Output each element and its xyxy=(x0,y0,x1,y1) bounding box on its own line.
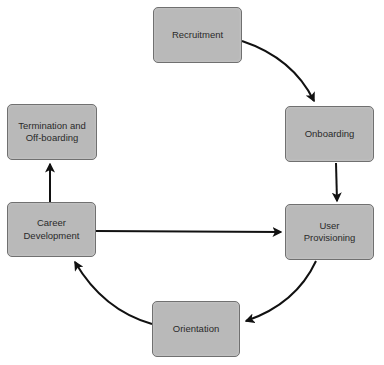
arrow-orientation-to-career-development xyxy=(75,262,152,324)
node-career-development: Career Development xyxy=(7,202,96,257)
node-label: Career Development xyxy=(24,217,80,242)
node-label: User Provisioning xyxy=(304,220,356,245)
node-label: Recruitment xyxy=(172,29,223,42)
lifecycle-diagram: Recruitment Onboarding User Provisioning… xyxy=(0,0,384,365)
node-termination-offboarding: Termination and Off-boarding xyxy=(7,104,97,160)
node-label: Termination and Off-boarding xyxy=(18,120,86,145)
node-label: Orientation xyxy=(173,323,219,336)
arrow-onboarding-to-user-provisioning xyxy=(336,163,337,201)
node-user-provisioning: User Provisioning xyxy=(285,204,374,260)
arrow-career-development-to-user-provisioning xyxy=(96,231,281,232)
node-orientation: Orientation xyxy=(152,301,240,357)
arrow-recruitment-to-onboarding xyxy=(242,41,314,101)
node-recruitment: Recruitment xyxy=(153,7,242,63)
node-label: Onboarding xyxy=(305,128,355,141)
arrow-user-provisioning-to-orientation xyxy=(246,261,316,321)
node-onboarding: Onboarding xyxy=(285,106,374,162)
